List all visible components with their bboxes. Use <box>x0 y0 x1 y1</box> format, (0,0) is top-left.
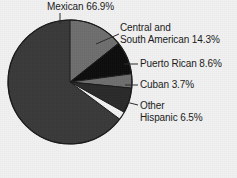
slice-label-other-hispanic: OtherHispanic 6.5% <box>140 100 203 123</box>
pie-chart-figure: Mexican 66.9% Central andSouth American … <box>0 0 237 178</box>
slice-label-puerto-rican-line1: Puerto Rican 8.6% <box>140 58 222 69</box>
slice-label-cuban-line1: Cuban 3.7% <box>140 79 194 90</box>
slice-label-central-south-american: Central andSouth American 14.3% <box>120 22 220 45</box>
slice-label-mexican-line1: Mexican 66.9% <box>47 1 114 12</box>
slice-label-puerto-rican: Puerto Rican 8.6% <box>140 58 222 70</box>
slice-label-cuban: Cuban 3.7% <box>140 79 194 91</box>
slice-label-other-line1: Other <box>140 100 165 111</box>
slice-label-other-line2: Hispanic 6.5% <box>140 112 203 123</box>
slice-label-mexican: Mexican 66.9% <box>47 1 114 13</box>
slice-label-central-line1: Central and <box>120 22 171 33</box>
slice-label-central-line2: South American 14.3% <box>120 34 220 45</box>
pie-slices-group <box>8 20 132 144</box>
